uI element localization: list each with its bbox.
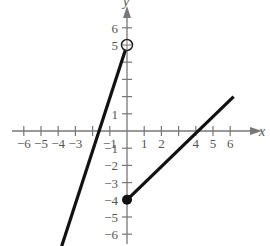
graph: −6−5−4−3−112456−6−5−4−3−2−1156 x y [0, 0, 270, 246]
x-tick-label: −3 [68, 136, 82, 151]
x-tick-label: −4 [51, 136, 65, 151]
y-tick-label: −4 [104, 193, 118, 208]
y-tick-label: −2 [104, 158, 118, 173]
x-tick-label: 2 [158, 136, 165, 151]
y-tick-label: −1 [104, 141, 118, 156]
x-tick-label: 5 [210, 136, 217, 151]
x-tick-label: −5 [34, 136, 48, 151]
closed-dot-icon [122, 195, 132, 205]
y-tick-label: −5 [104, 210, 118, 225]
y-tick-label: 6 [112, 21, 119, 36]
x-axis-label: x [258, 124, 266, 139]
y-tick-label: 1 [112, 107, 119, 122]
y-axis-label: y [121, 0, 130, 9]
x-tick-label: 1 [141, 136, 148, 151]
x-tick-label: 4 [193, 136, 200, 151]
x-tick-label: 6 [227, 136, 234, 151]
x-tick-label: −6 [17, 136, 31, 151]
y-tick-label: 5 [112, 38, 119, 53]
y-tick-label: −3 [104, 176, 118, 191]
y-tick-label: −6 [104, 227, 118, 242]
